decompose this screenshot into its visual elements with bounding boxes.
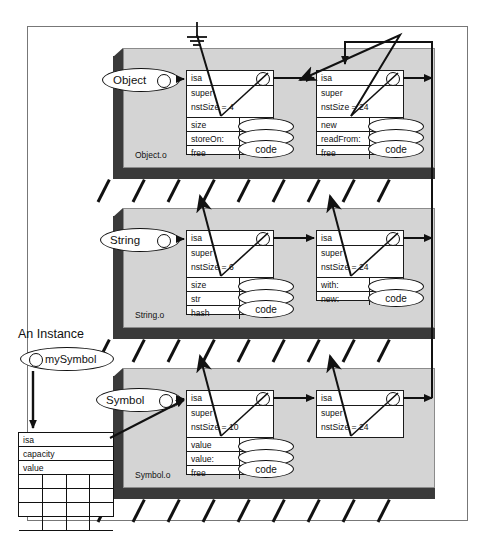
instance-field-value: value — [19, 461, 113, 475]
instance-name-ellipse[interactable]: mySymbol — [20, 347, 114, 371]
isa-pointer-circle[interactable] — [386, 392, 400, 406]
class-name-ellipse-object[interactable]: Object — [102, 68, 180, 92]
metaclass-row-nstsize: nstSize = 24 — [317, 420, 403, 434]
instance-grid-row — [19, 517, 113, 531]
instance-name-label: mySymbol — [45, 353, 96, 365]
class-row-nstsize: nstSize = 10 — [187, 420, 273, 434]
isa-pointer-circle[interactable] — [256, 392, 270, 406]
instance-grid-row — [19, 489, 113, 503]
instance-grid-row — [19, 475, 113, 489]
class-name-ellipse-symbol[interactable]: Symbol — [96, 388, 182, 412]
name-pointer-circle[interactable] — [159, 394, 173, 408]
method-name: size — [191, 120, 206, 130]
instance-field-capacity: capacity — [19, 447, 113, 461]
class-row-super: super — [187, 246, 273, 260]
method-name: new: — [321, 294, 339, 304]
metaclass-row-super: super — [317, 86, 403, 100]
instance-grid-row — [19, 503, 113, 517]
metaclass-box-symbol: isa super nstSize = 24 — [316, 390, 404, 438]
metaclass-row-nstsize: nstSize = 24 — [317, 100, 403, 114]
class-row-super: super — [187, 86, 273, 100]
method-name: free — [321, 148, 336, 158]
method-name: free — [191, 148, 206, 158]
method-name: with: — [321, 280, 339, 290]
class-row-nstsize: nstSize = 4 — [187, 100, 273, 114]
object-file-label: Object.o — [135, 150, 167, 160]
instance-table: isa capacity value — [18, 432, 114, 517]
isa-pointer-circle[interactable] — [386, 72, 400, 86]
class-row-nstsize: nstSize = 6 — [187, 260, 273, 274]
metaclass-row-super: super — [317, 406, 403, 420]
object-file-label: String.o — [135, 310, 164, 320]
method-name: storeOn: — [191, 134, 224, 144]
code-oval-labeled: code — [238, 300, 294, 318]
name-pointer-circle[interactable] — [157, 74, 171, 88]
panel-edge-bottom — [113, 488, 435, 499]
panel-edge-bottom — [113, 328, 435, 339]
object-file-label: Symbol.o — [135, 470, 170, 480]
class-row-super: super — [187, 406, 273, 420]
panel-edge-bottom — [113, 168, 435, 179]
method-name: readFrom: — [321, 134, 361, 144]
method-name: value: — [191, 454, 214, 464]
panel-corner-bottom-right — [425, 168, 435, 179]
isa-pointer-circle[interactable] — [256, 232, 270, 246]
method-name: str — [191, 294, 201, 304]
method-name: new — [321, 120, 337, 130]
metaclass-row-super: super — [317, 246, 403, 260]
method-name: size — [191, 280, 206, 290]
class-name-label: Object — [113, 74, 146, 86]
panel-corner-bottom-right — [425, 488, 435, 499]
name-pointer-circle[interactable] — [157, 234, 171, 248]
class-name-ellipse-string[interactable]: String — [100, 228, 180, 252]
class-name-label: String — [110, 234, 140, 246]
panel-corner-bottom-right — [425, 328, 435, 339]
method-name: free — [191, 468, 206, 478]
class-name-label: Symbol — [106, 394, 144, 406]
instance-section-title: An Instance — [18, 327, 84, 341]
isa-pointer-circle[interactable] — [256, 72, 270, 86]
method-name: hash — [191, 308, 210, 318]
instance-field-isa: isa — [19, 433, 113, 447]
isa-pointer-circle[interactable] — [386, 232, 400, 246]
code-oval-labeled: code — [238, 460, 294, 478]
code-oval-labeled: code — [368, 140, 424, 158]
diagram-root: Object.o isa super nstSize = 4 size stor… — [0, 0, 482, 549]
instance-pointer-circle[interactable] — [29, 353, 43, 367]
code-oval-labeled: code — [368, 289, 424, 307]
code-oval-labeled: code — [238, 140, 294, 158]
metaclass-row-nstsize: nstSize = 24 — [317, 260, 403, 274]
method-name: value — [191, 440, 212, 450]
